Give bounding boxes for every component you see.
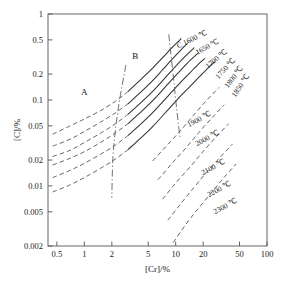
region-label-b: B	[132, 51, 138, 61]
y-tick-label: 0.05	[28, 121, 43, 131]
y-tick-label: 0.1	[32, 95, 43, 105]
x-tick-label: 0.5	[52, 249, 63, 259]
y-tick-label: 0.5	[32, 35, 43, 45]
x-tick-label: 10	[171, 249, 180, 259]
y-tick-label: 0.002	[24, 241, 43, 251]
x-tick-label: 2	[110, 249, 114, 259]
y-tick-label: 0.2	[32, 69, 43, 79]
y-tick-label: 0.01	[28, 181, 43, 191]
chart-background	[0, 0, 287, 282]
x-tick-label: 1	[82, 249, 86, 259]
y-axis-title: [C]/%	[12, 119, 22, 141]
x-tick-label: 50	[235, 249, 244, 259]
y-tick-label: 0.02	[28, 155, 43, 165]
x-axis-title: [Cr]/%	[145, 264, 170, 274]
y-tick-label: 0.005	[24, 207, 43, 217]
region-label-a: A	[81, 87, 88, 97]
log-log-chart: 0.512510205010010.50.20.10.050.020.010.0…	[0, 0, 287, 282]
x-tick-label: 100	[261, 249, 274, 259]
x-tick-label: 20	[199, 249, 208, 259]
x-tick-label: 5	[146, 249, 150, 259]
y-tick-label: 1	[39, 9, 43, 19]
chart-container: 0.512510205010010.50.20.10.050.020.010.0…	[0, 0, 287, 282]
